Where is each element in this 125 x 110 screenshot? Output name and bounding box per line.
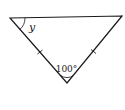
angle-label-y: y [28,21,36,34]
angle-arc-top-left [20,18,25,30]
angle-label-100: 100° [56,64,78,74]
triangle-diagram: y 100° [0,0,125,110]
